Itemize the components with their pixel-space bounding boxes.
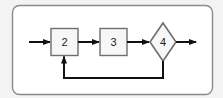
node-4-label: 4: [160, 36, 166, 48]
node-3: 3: [100, 29, 127, 56]
diagram-canvas: 2 3 4: [0, 0, 223, 98]
flowchart-svg: 2 3 4: [0, 0, 223, 98]
node-2-label: 2: [61, 36, 67, 48]
node-3-label: 3: [110, 36, 116, 48]
node-2: 2: [51, 29, 78, 56]
